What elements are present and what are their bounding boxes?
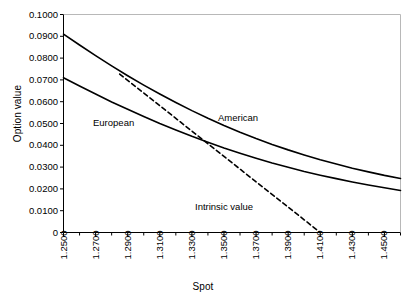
y-tick-label: 0.0800 [6, 53, 58, 63]
x-tick-label: 1.2500 [58, 230, 69, 259]
y-tick-label: 0.0900 [6, 31, 58, 41]
series-label-european: European [93, 117, 134, 128]
series-label-intrinsic: Intrinsic value [195, 201, 253, 212]
x-tick-label: 1.3100 [154, 230, 165, 259]
x-tick-label: 1.3300 [186, 230, 197, 259]
y-axis-title: Option value [12, 69, 23, 159]
x-tick-label: 1.4100 [314, 230, 325, 259]
y-tick: 0.0100 [6, 206, 58, 216]
x-tick-label: 1.3700 [250, 230, 261, 259]
x-tick-label: 1.3500 [218, 230, 229, 259]
x-tick-label: 1.2900 [122, 230, 133, 259]
y-tick: 0.1000 [6, 10, 58, 20]
x-axis-title: Spot [0, 281, 406, 292]
y-tick: 0.0900 [6, 31, 58, 41]
y-tick-label: 0 [6, 228, 58, 238]
series-label-american: American [218, 112, 258, 123]
y-tick: 0.0300 [6, 162, 58, 172]
y-tick: 0 [6, 228, 58, 238]
chart-figure: 0.10000.09000.08000.07000.06000.05000.04… [0, 0, 406, 298]
x-tick-label: 1.2700 [90, 230, 101, 259]
x-tick-label: 1.4500 [378, 230, 389, 259]
y-tick: 0.0200 [6, 184, 58, 194]
y-tick: 0.0800 [6, 53, 58, 63]
x-tick-label: 1.4300 [346, 230, 357, 259]
y-tick-label: 0.0200 [6, 184, 58, 194]
y-tick-label: 0.0300 [6, 162, 58, 172]
y-tick-label: 0.0100 [6, 206, 58, 216]
x-tick-label: 1.3900 [282, 230, 293, 259]
y-tick-label: 0.1000 [6, 10, 58, 20]
